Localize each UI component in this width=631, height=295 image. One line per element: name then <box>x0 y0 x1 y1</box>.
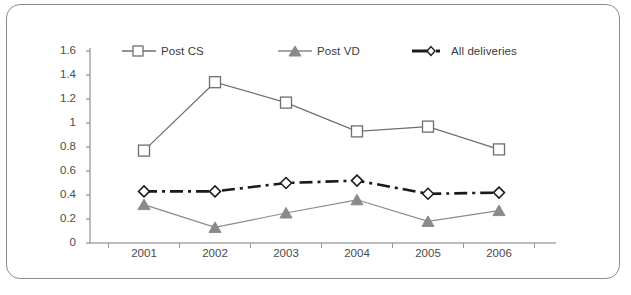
axis-lines <box>86 48 556 248</box>
series-line-2 <box>144 181 499 194</box>
line-chart: Post CS Post VD All deliveries <box>0 0 631 295</box>
data-point-marker <box>493 205 505 216</box>
plot-area <box>0 0 631 295</box>
data-point-marker <box>494 187 505 198</box>
data-point-marker <box>352 126 363 137</box>
data-point-marker <box>138 199 150 210</box>
data-point-marker <box>139 145 150 156</box>
data-point-marker <box>351 194 363 205</box>
data-point-marker <box>139 186 150 197</box>
data-point-marker <box>281 97 292 108</box>
series-lines <box>138 77 505 233</box>
data-point-marker <box>423 188 434 199</box>
series-line-0 <box>144 82 499 150</box>
series-line-1 <box>144 200 499 228</box>
data-point-marker <box>494 144 505 155</box>
data-point-marker <box>210 186 221 197</box>
data-point-marker <box>210 77 221 88</box>
data-point-marker <box>423 121 434 132</box>
data-point-marker <box>281 178 292 189</box>
data-point-marker <box>352 175 363 186</box>
